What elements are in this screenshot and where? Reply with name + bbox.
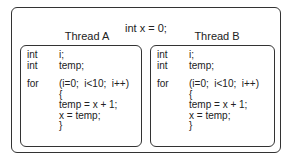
code-text: x = temp; [189, 111, 230, 122]
code-text: x = temp; [59, 111, 100, 122]
code-text: (i=0; i<10; i++) [189, 79, 259, 90]
thread-a-code: inti; inttemp; for(i=0; i<10; i++) { tem… [27, 50, 129, 132]
keyword [157, 121, 189, 132]
code-line: inttemp; [157, 61, 259, 72]
code-line: for(i=0; i<10; i++) [157, 79, 259, 90]
code-text: temp = x + 1; [189, 100, 247, 111]
thread-b-box: inti; inttemp; for(i=0; i<10; i++) { tem… [150, 45, 275, 147]
keyword [27, 100, 59, 111]
code-line: x = temp; [27, 111, 129, 122]
code-line: for(i=0; i<10; i++) [27, 79, 129, 90]
keyword: for [27, 79, 59, 90]
keyword [27, 111, 59, 122]
thread-b-title: Thread B [167, 30, 267, 42]
keyword: int [157, 50, 189, 61]
code-line: inti; [27, 50, 129, 61]
keyword: int [27, 50, 59, 61]
code-text: temp = x + 1; [59, 100, 117, 111]
code-line: inti; [157, 50, 259, 61]
keyword [157, 111, 189, 122]
code-text: } [59, 121, 62, 132]
code-text: } [189, 121, 192, 132]
code-text: temp; [189, 61, 214, 72]
code-line: x = temp; [157, 111, 259, 122]
code-text: temp; [59, 61, 84, 72]
code-text: i; [59, 50, 64, 61]
code-line: temp = x + 1; [27, 100, 129, 111]
keyword: int [27, 61, 59, 72]
keyword [157, 90, 189, 101]
keyword [157, 100, 189, 111]
code-text: (i=0; i<10; i++) [59, 79, 129, 90]
thread-a-box: inti; inttemp; for(i=0; i<10; i++) { tem… [20, 45, 142, 147]
code-line: inttemp; [27, 61, 129, 72]
code-text: i; [189, 50, 194, 61]
thread-b-code: inti; inttemp; for(i=0; i<10; i++) { tem… [157, 50, 259, 132]
keyword: for [157, 79, 189, 90]
code-line: temp = x + 1; [157, 100, 259, 111]
code-line: } [27, 121, 129, 132]
thread-a-title: Thread A [37, 30, 137, 42]
keyword [27, 121, 59, 132]
keyword: int [157, 61, 189, 72]
keyword [27, 90, 59, 101]
code-line: } [157, 121, 259, 132]
